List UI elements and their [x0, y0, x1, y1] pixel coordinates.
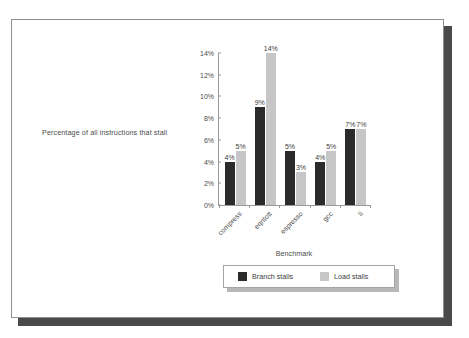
bar-value-label: 9% — [255, 99, 265, 106]
bar-group: 9%14% — [249, 53, 279, 205]
legend-item-label: Branch stalls — [252, 272, 293, 281]
slide-frame: Percentage of all instructions that stal… — [11, 19, 444, 318]
bar-value-label: 4% — [315, 154, 325, 161]
x-axis-tick-mark — [340, 205, 341, 208]
y-axis-caption: Percentage of all instructions that stal… — [42, 128, 202, 137]
y-axis-tick-mark — [218, 96, 221, 97]
bar-groups: 4%5%9%14%5%3%4%5%7%7% — [219, 53, 370, 205]
chart-legend: Branch stallsLoad stalls — [223, 265, 395, 288]
bar-group: 5%3% — [279, 53, 309, 205]
y-axis-tick-mark — [218, 53, 221, 54]
bar-load-stalls — [356, 129, 366, 205]
legend-item: Branch stalls — [238, 272, 293, 281]
y-axis-tick-mark — [218, 74, 221, 75]
y-axis-tick-label: 4% — [204, 158, 214, 165]
x-axis-tick-mark — [279, 205, 280, 208]
bar-chart: Percentage of all instructions that stal… — [12, 20, 445, 319]
y-axis-tick-mark — [218, 139, 221, 140]
y-axis-tick-mark — [218, 118, 221, 119]
y-axis-tick-label: 2% — [204, 180, 214, 187]
bar-branch-stalls — [225, 162, 235, 205]
x-axis-tick-mark — [370, 205, 371, 208]
bar-value-label: 7% — [345, 121, 355, 128]
bar-load-stalls — [236, 151, 246, 205]
x-axis-tick-label: gcc — [321, 210, 334, 223]
y-axis-tick-label: 10% — [200, 93, 214, 100]
bar-value-label: 5% — [285, 143, 295, 150]
y-axis-tick-label: 0% — [204, 202, 214, 209]
bar-load-stalls — [326, 151, 336, 205]
x-axis-tick-mark — [219, 205, 220, 208]
branch-stalls-swatch — [238, 272, 247, 281]
x-axis-line — [218, 205, 370, 206]
bar-branch-stalls — [285, 151, 295, 205]
bar-value-label: 5% — [236, 143, 246, 150]
x-axis-tick-label: espresso — [278, 210, 303, 235]
bar-branch-stalls — [315, 162, 325, 205]
y-axis-tick-label: 6% — [204, 136, 214, 143]
legend-item: Load stalls — [320, 272, 368, 281]
bar-load-stalls — [296, 172, 306, 205]
load-stalls-swatch — [320, 272, 329, 281]
y-axis-ticks: 0%2%4%6%8%10%12%14% — [190, 53, 218, 205]
x-axis-tick-label: li — [357, 210, 364, 217]
y-axis-tick-label: 8% — [204, 115, 214, 122]
bar-group: 4%5% — [310, 53, 340, 205]
x-axis-caption: Benchmark — [218, 249, 370, 258]
bar-group: 4%5% — [219, 53, 249, 205]
x-axis-tick-mark — [249, 205, 250, 208]
y-axis-tick-mark — [218, 161, 221, 162]
bar-value-label: 7% — [356, 121, 366, 128]
bar-value-label: 14% — [264, 45, 278, 52]
plot-area: 0%2%4%6%8%10%12%14% 4%5%9%14%5%3%4%5%7%7… — [190, 53, 376, 223]
x-axis-tick-label: eqntott — [253, 210, 273, 230]
x-axis-tick-label: compress — [217, 210, 243, 236]
y-axis-tick-label: 14% — [200, 50, 214, 57]
bar-group: 7%7% — [340, 53, 370, 205]
bar-load-stalls — [266, 53, 276, 205]
bar-value-label: 4% — [225, 154, 235, 161]
bar-branch-stalls — [255, 107, 265, 205]
x-axis-tick-mark — [310, 205, 311, 208]
y-axis-tick-label: 12% — [200, 71, 214, 78]
bar-branch-stalls — [345, 129, 355, 205]
legend-item-label: Load stalls — [334, 272, 368, 281]
bar-value-label: 5% — [326, 143, 336, 150]
y-axis-tick-mark — [218, 183, 221, 184]
bar-value-label: 3% — [296, 164, 306, 171]
